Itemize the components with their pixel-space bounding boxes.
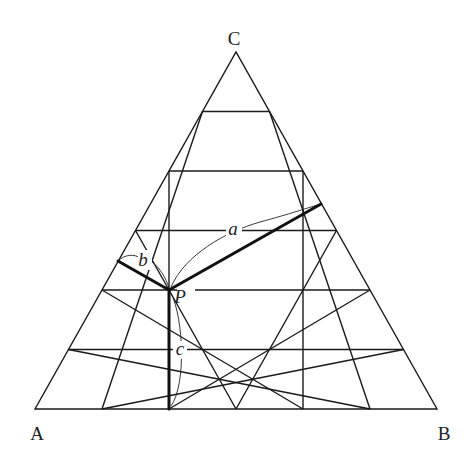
distance-label-b: b xyxy=(138,249,148,270)
grid-line-parallel-ac xyxy=(236,231,337,410)
vertex-label-a: A xyxy=(30,423,44,444)
grid-line-parallel-ac xyxy=(270,112,371,410)
distance-label-c: c xyxy=(176,338,185,359)
ternary-diagram: A B C P a b c xyxy=(0,0,474,454)
vertex-label-c: C xyxy=(228,28,241,49)
distance-a-line xyxy=(169,204,321,290)
distance-label-a: a xyxy=(228,218,238,239)
grid-line-parallel-bc xyxy=(69,350,371,410)
vertex-label-b: B xyxy=(438,423,451,444)
point-label-p: P xyxy=(173,286,186,307)
